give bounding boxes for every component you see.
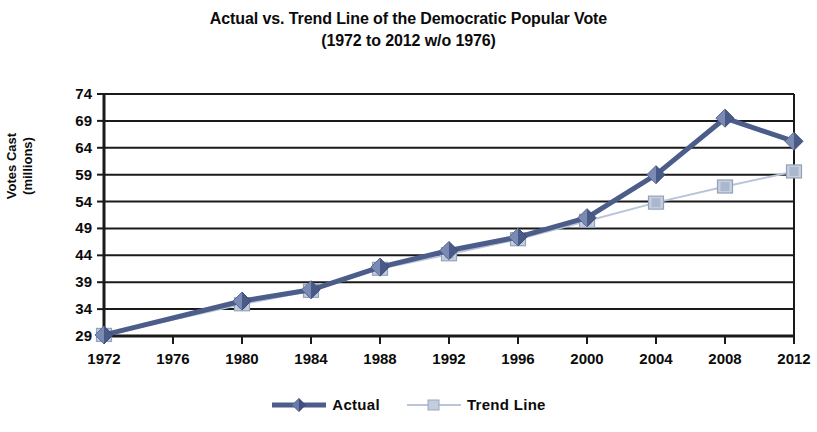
x-axis-tick-label: 1972	[87, 350, 120, 367]
x-axis-tick-label: 1984	[294, 350, 328, 367]
x-axis-tick-label: 1980	[225, 350, 258, 367]
x-axis-tick-label: 2000	[570, 350, 603, 367]
x-axis-tick-label: 1976	[156, 350, 189, 367]
y-axis-tick-label: 59	[75, 166, 92, 183]
series-line	[104, 118, 794, 335]
y-axis-tick-label: 29	[75, 327, 92, 344]
x-axis-tick-label: 1988	[363, 350, 396, 367]
legend-swatch-actual-icon	[271, 397, 327, 413]
y-axis-tick-label: 54	[75, 193, 92, 210]
data-point-marker	[787, 165, 802, 178]
square-marker-shading	[652, 198, 661, 207]
x-axis-tick-label: 2012	[777, 350, 810, 367]
x-axis-tick-label: 2004	[639, 350, 673, 367]
chart-legend: Actual Trend Line	[0, 396, 817, 413]
y-axis-tick-label: 64	[75, 139, 92, 156]
y-axis-tick-label: 74	[75, 85, 92, 102]
x-axis-tick-label: 1992	[432, 350, 465, 367]
y-axis-tick-label: 49	[75, 219, 92, 236]
legend-label-trend-line: Trend Line	[467, 396, 546, 413]
x-axis-tick-label: 1996	[501, 350, 534, 367]
square-marker-shading	[721, 182, 730, 191]
data-point-marker	[718, 180, 733, 193]
legend-item-actual[interactable]: Actual	[271, 396, 380, 413]
chart-container: Actual vs. Trend Line of the Democratic …	[0, 0, 817, 432]
legend-label-actual: Actual	[332, 396, 380, 413]
x-axis-tick-label: 2008	[708, 350, 741, 367]
y-axis-tick-label: 69	[75, 112, 92, 129]
square-marker-shading	[790, 167, 799, 176]
y-axis-tick-label: 44	[75, 246, 92, 263]
data-point-marker	[649, 196, 664, 209]
legend-swatch-trend-icon	[406, 397, 462, 413]
y-axis-tick-label: 34	[75, 300, 92, 317]
y-axis-tick-label: 39	[75, 273, 92, 290]
plot-area: 2934394449545964697419721976198019841988…	[0, 0, 817, 432]
legend-item-trend-line[interactable]: Trend Line	[406, 396, 546, 413]
